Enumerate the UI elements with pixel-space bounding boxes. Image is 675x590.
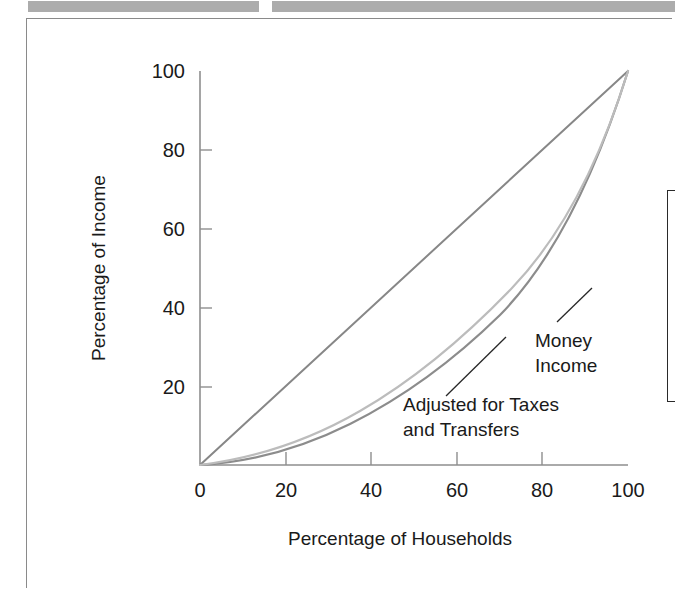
money-income-leader-line (557, 288, 592, 322)
y-axis-ticks (200, 150, 212, 387)
y-tick-label-100: 100 (152, 60, 185, 82)
y-axis-tick-labels: 100 80 60 40 20 (152, 60, 185, 398)
money-income-annotation-line-1: Money (535, 330, 593, 351)
adjusted-annotation-line-1: Adjusted for Taxes (403, 394, 559, 415)
x-axis-tick-labels: 0 20 40 60 80 100 (194, 479, 644, 501)
y-tick-label-40: 40 (163, 297, 185, 319)
adjusted-annotation: Adjusted for Taxes and Transfers (403, 394, 559, 440)
money-income-annotation-line-2: Income (535, 355, 597, 376)
adjusted-leader-line (446, 337, 506, 396)
x-tick-label-20: 20 (275, 479, 297, 501)
x-tick-label-80: 80 (531, 479, 553, 501)
money-income-annotation: Money Income (535, 330, 597, 376)
y-tick-label-80: 80 (163, 139, 185, 161)
x-axis-title: Percentage of Households (288, 528, 512, 549)
x-tick-label-0: 0 (194, 479, 205, 501)
y-axis-title: Percentage of Income (88, 175, 109, 361)
x-tick-label-40: 40 (360, 479, 382, 501)
x-tick-label-100: 100 (611, 479, 644, 501)
y-tick-label-60: 60 (163, 218, 185, 240)
x-tick-label-60: 60 (446, 479, 468, 501)
adjusted-annotation-line-2: and Transfers (403, 419, 519, 440)
lorenz-curve-chart: 100 80 60 40 20 0 20 40 60 80 100 Percen… (0, 0, 675, 590)
y-tick-label-20: 20 (163, 376, 185, 398)
x-axis-ticks (286, 452, 542, 465)
